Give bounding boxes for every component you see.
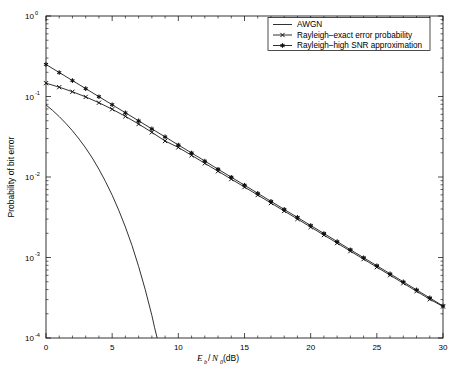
y-tick-label-mantissa: 10 xyxy=(25,12,34,21)
y-tick-label-exponent: -2 xyxy=(35,171,40,177)
y-tick-label-exponent: -1 xyxy=(35,90,40,96)
x-tick-label: 0 xyxy=(44,343,49,352)
y-tick-label-mantissa: 10 xyxy=(25,334,34,343)
x-axis-title-e: E xyxy=(196,353,203,363)
figure-background xyxy=(0,0,462,374)
x-axis-title-n: N xyxy=(211,353,219,363)
y-axis-title: Probability of bit error xyxy=(6,136,16,217)
y-tick-label-exponent: -3 xyxy=(35,251,40,257)
y-tick-label-mantissa: 10 xyxy=(25,93,34,102)
y-tick-label-exponent: -4 xyxy=(35,332,40,338)
ber-chart-figure: 051015202530 10010-110-210-310-4 E b / N… xyxy=(0,0,462,374)
y-tick-label-mantissa: 10 xyxy=(25,254,34,263)
legend-label: AWGN xyxy=(297,20,322,29)
x-tick-label: 20 xyxy=(306,343,315,352)
plot-canvas: 051015202530 10010-110-210-310-4 E b / N… xyxy=(0,0,462,374)
legend-label: Rayleigh–exact error probability xyxy=(297,31,413,40)
x-tick-label: 10 xyxy=(174,343,183,352)
x-tick-label: 30 xyxy=(439,343,448,352)
legend: AWGNRayleigh–exact error probabilityRayl… xyxy=(268,18,430,51)
y-tick-label-exponent: 0 xyxy=(35,10,38,16)
y-tick-label-mantissa: 10 xyxy=(25,173,34,182)
x-tick-label: 25 xyxy=(372,343,381,352)
x-axis-title-unit: (dB) xyxy=(223,353,239,363)
legend-label: Rayleigh–high SNR approximation xyxy=(297,41,423,50)
x-tick-label: 15 xyxy=(240,343,249,352)
x-axis-title-b: b xyxy=(204,358,207,365)
x-tick-label: 5 xyxy=(110,343,115,352)
